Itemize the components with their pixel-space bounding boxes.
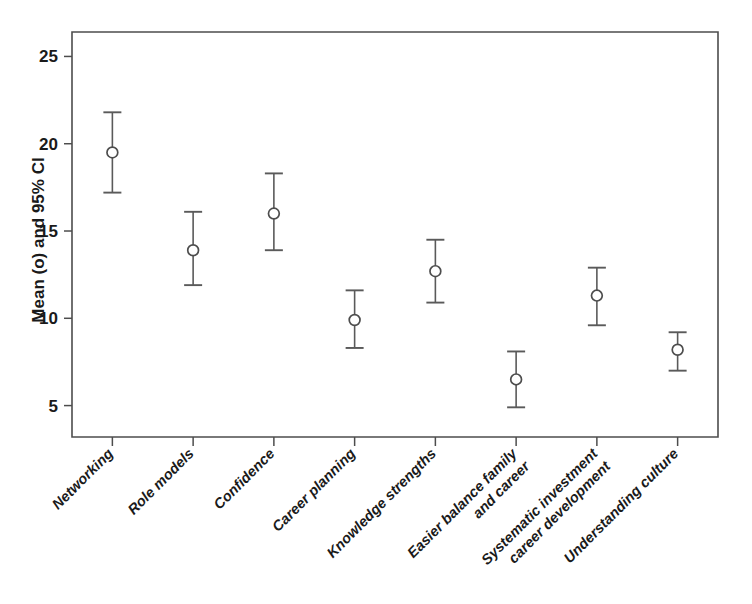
- mean-marker: [107, 147, 118, 158]
- y-axis-title: Mean (o) and 95% CI: [29, 157, 48, 322]
- y-tick-label: 5: [49, 397, 58, 416]
- mean-marker: [268, 208, 279, 219]
- mean-marker: [672, 344, 683, 355]
- mean-marker: [591, 290, 602, 301]
- chart-figure: 510152025 NetworkingRole modelsConfidenc…: [0, 0, 752, 604]
- y-tick-label: 25: [39, 47, 58, 66]
- mean-marker: [430, 266, 441, 277]
- mean-marker: [511, 374, 522, 385]
- mean-marker: [349, 315, 360, 326]
- mean-marker: [188, 245, 199, 256]
- error-bar-chart: 510152025 NetworkingRole modelsConfidenc…: [0, 0, 752, 604]
- y-tick-label: 20: [39, 135, 58, 154]
